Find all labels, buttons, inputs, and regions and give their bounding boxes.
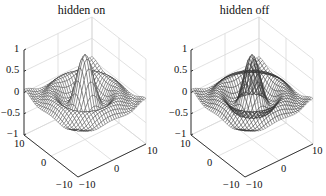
y-tick-label: 10 [14,139,25,150]
z-tick-label: 1 [182,44,187,55]
y-tick-label: 0 [41,158,46,169]
plot-title: hidden off [163,3,326,18]
x-tick-label: 0 [281,164,286,175]
x-tick-label: 10 [147,146,158,157]
surface-plot-hidden-off [163,0,326,196]
z-tick-label: 1 [14,44,19,55]
plot-panel-hidden-on: hidden on 1 0.5 0 −0.5 −1 10 0 −10 −10 0… [0,0,163,196]
y-tick-label: −10 [56,180,72,191]
z-tick-label: 0.5 [6,65,19,76]
surface-plot-hidden-on [0,0,163,196]
z-tick-label: −0.5 [169,108,188,119]
x-tick-label: 0 [114,164,119,175]
x-tick-label: −10 [246,180,262,191]
z-tick-label: −0.5 [1,108,20,119]
plot-title: hidden on [0,3,163,18]
z-tick-label: 0 [182,87,187,98]
y-tick-label: −10 [223,180,239,191]
plot-panel-hidden-off: hidden off 1 0.5 0 −0.5 −1 10 0 −10 −10 … [163,0,326,196]
x-tick-label: −10 [79,180,95,191]
z-tick-label: 0 [14,87,19,98]
y-tick-label: 10 [180,139,191,150]
z-tick-label: 0.5 [174,65,187,76]
x-tick-label: 10 [312,146,323,157]
y-tick-label: 0 [207,158,212,169]
